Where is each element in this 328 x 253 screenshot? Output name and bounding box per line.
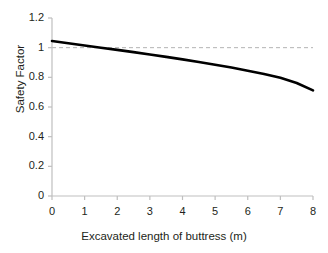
y-tick-label-0: 0 — [4, 190, 44, 201]
x-tick-label-5: 5 — [200, 206, 230, 217]
x-tick-label-1: 1 — [70, 206, 100, 217]
data-series-group — [52, 41, 313, 90]
x-tick-label-8: 8 — [298, 206, 328, 217]
safety-factor-line-chart: 00.20.40.60.811.2 012345678 Safety Facto… — [0, 0, 328, 253]
y-tick-label-1: 0.2 — [4, 160, 44, 171]
x-tick-label-6: 6 — [233, 206, 263, 217]
x-axis-title: Excavated length of buttress (m) — [0, 230, 328, 242]
x-tick-label-3: 3 — [135, 206, 165, 217]
x-tick-label-2: 2 — [102, 206, 132, 217]
x-tick-label-7: 7 — [265, 206, 295, 217]
axes-group — [52, 18, 313, 196]
y-axis-title: Safety Factor — [14, 19, 26, 139]
x-tick-label-4: 4 — [168, 206, 198, 217]
series-line-0 — [52, 41, 313, 90]
x-tick-label-0: 0 — [37, 206, 67, 217]
